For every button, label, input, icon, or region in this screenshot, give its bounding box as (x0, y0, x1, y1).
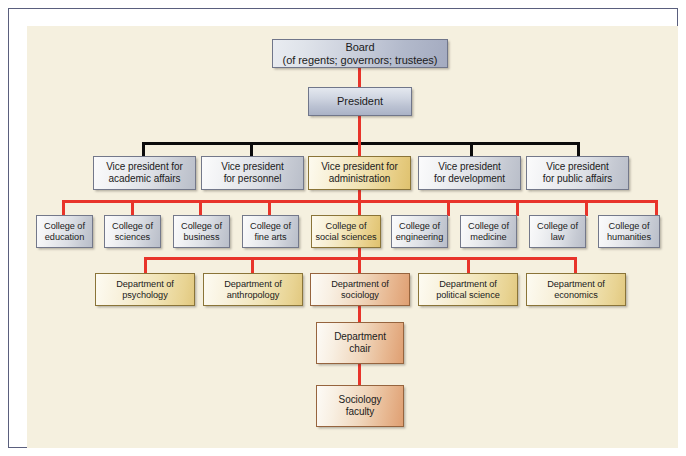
node-department-anthropology[interactable]: Department of anthropology (203, 273, 303, 306)
node-department-economics[interactable]: Department of economics (526, 273, 626, 306)
node-board[interactable]: Board (of regents; governors; trustees) (272, 39, 448, 68)
connector-college-drop-business (199, 200, 202, 216)
connector-college-drop-engineering (447, 200, 450, 216)
connector-college-drop-medicine (516, 200, 519, 216)
connector-vp-horizontal-bus (142, 142, 580, 145)
chart-canvas: Board (of regents; governors; trustees) … (27, 26, 678, 448)
node-college-business[interactable]: College of business (173, 215, 230, 248)
node-president[interactable]: President (308, 87, 412, 116)
organizational-chart-screenshot: Board (of regents; governors; trustees) … (0, 0, 686, 456)
connector-dept-drop-economics (574, 257, 577, 274)
connector-president-to-vp-bus (358, 115, 361, 144)
connector-dept-drop-anthropology (251, 257, 254, 274)
connector-vp-drop-personnel (250, 142, 253, 157)
connector-board-to-president (358, 66, 361, 87)
node-college-sciences[interactable]: College of sciences (104, 215, 161, 248)
connector-college-drop-sciences (131, 200, 134, 216)
node-college-fine-arts[interactable]: College of fine arts (242, 215, 299, 248)
node-vp-academic-affairs[interactable]: Vice president for academic affairs (93, 156, 196, 190)
node-college-engineering[interactable]: College of engineering (391, 215, 448, 248)
node-vp-personnel[interactable]: Vice president for personnel (201, 156, 304, 190)
node-department-sociology[interactable]: Department of sociology (310, 273, 410, 306)
connector-college-drop-humanities (655, 200, 658, 216)
node-vp-administration[interactable]: Vice president for administration (308, 156, 411, 190)
node-sociology-faculty[interactable]: Sociology faculty (316, 385, 404, 427)
connector-vp-drop-public-affairs (577, 142, 580, 157)
connector-vp-drop-academic (142, 142, 145, 157)
node-vp-development[interactable]: Vice president for development (418, 156, 521, 190)
connector-college-drop-education (62, 200, 65, 216)
chart-outer-frame: Board (of regents; governors; trustees) … (8, 8, 678, 448)
node-vp-public-affairs[interactable]: Vice president for public affairs (526, 156, 629, 190)
connector-sociology-spine (358, 257, 361, 274)
connector-college-drop-law (585, 200, 588, 216)
node-department-political-science[interactable]: Department of political science (418, 273, 518, 306)
connector-dept-drop-psychology (144, 257, 147, 274)
node-college-humanities[interactable]: College of humanities (598, 215, 660, 248)
node-department-psychology[interactable]: Department of psychology (95, 273, 195, 306)
node-college-law[interactable]: College of law (529, 215, 586, 248)
connector-college-drop-fine-arts (268, 200, 271, 216)
node-department-chair[interactable]: Department chair (316, 322, 404, 364)
connector-dept-drop-political-science (467, 257, 470, 274)
node-college-social-sciences[interactable]: College of social sciences (311, 215, 381, 248)
node-college-medicine[interactable]: College of medicine (460, 215, 517, 248)
connector-vp-drop-development (470, 142, 473, 157)
connector-chair-to-faculty (358, 363, 361, 386)
node-college-education[interactable]: College of education (36, 215, 93, 248)
